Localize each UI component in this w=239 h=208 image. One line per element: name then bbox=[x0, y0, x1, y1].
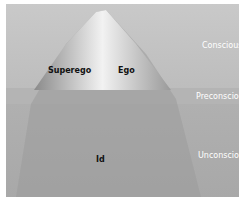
iceberg-diagram: Superego Ego Id Conscious Preconscious U… bbox=[6, 4, 239, 197]
label-unconscious: Unconscious bbox=[198, 151, 239, 160]
label-ego: Ego bbox=[118, 66, 135, 75]
label-superego: Superego bbox=[48, 66, 91, 75]
label-preconscious: Preconscious bbox=[196, 92, 239, 101]
label-id: Id bbox=[96, 155, 105, 164]
label-conscious: Conscious bbox=[202, 41, 239, 50]
